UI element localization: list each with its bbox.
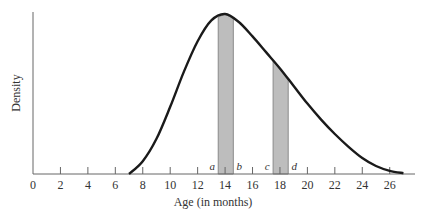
shaded-region-ab [218, 14, 233, 174]
region-label-c: c [265, 160, 270, 172]
region-label-a: a [209, 160, 215, 172]
x-tick-label: 16 [247, 178, 259, 192]
x-tick-label: 24 [356, 178, 368, 192]
x-tick-label: 14 [219, 178, 231, 192]
y-axis-label: Density [9, 74, 23, 111]
region-label-d: d [291, 160, 297, 172]
x-tick-label: 26 [384, 178, 396, 192]
x-tick-label: 4 [85, 178, 91, 192]
x-tick-label: 0 [30, 178, 36, 192]
x-tick-label: 8 [140, 178, 146, 192]
x-axis-label: Age (in months) [174, 195, 253, 209]
density-curve [129, 14, 403, 174]
density-chart: 02468101214161820222426 abcd Age (in mon… [0, 0, 428, 216]
x-tick-label: 20 [301, 178, 313, 192]
x-tick-label: 18 [274, 178, 286, 192]
region-label-b: b [237, 160, 243, 172]
x-tick-label: 22 [329, 178, 341, 192]
x-tick-label: 12 [192, 178, 204, 192]
x-tick-label: 2 [57, 178, 63, 192]
x-tick-label: 10 [164, 178, 176, 192]
x-tick-label: 6 [112, 178, 118, 192]
